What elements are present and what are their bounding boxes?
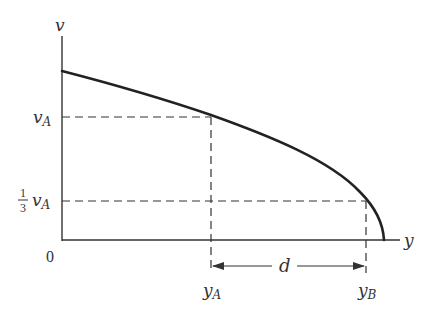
- yB-label: yB: [357, 280, 377, 302]
- arrowhead-right-icon: [353, 262, 365, 270]
- distance-label: d: [279, 255, 291, 276]
- third-fraction-num: 1: [20, 186, 26, 200]
- third-vA-label: vA: [32, 190, 51, 212]
- arrowhead-left-icon: [212, 262, 224, 270]
- y-axis-label: y: [403, 230, 414, 250]
- yA-label: yA: [202, 280, 222, 302]
- origin-label: 0: [46, 248, 54, 265]
- third-fraction-den: 3: [20, 201, 26, 215]
- velocity-curve: [62, 71, 384, 240]
- velocity-position-diagram: v y 0 vA 1 3 vA yA yB d: [0, 0, 431, 318]
- v-axis-label: v: [55, 15, 65, 35]
- vA-label: vA: [33, 107, 52, 129]
